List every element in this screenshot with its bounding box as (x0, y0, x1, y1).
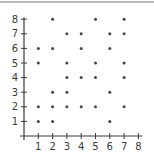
x-tick-label: 6 (107, 141, 113, 152)
x-tick-label: 1 (35, 141, 41, 152)
data-point (80, 32, 83, 35)
y-tick-label: 5 (12, 58, 18, 69)
y-tick-label: 3 (12, 87, 18, 98)
data-point (51, 91, 54, 94)
data-point (37, 105, 40, 108)
data-points (37, 18, 126, 123)
data-point (108, 32, 111, 35)
data-point (108, 91, 111, 94)
y-tick-label: 1 (12, 116, 18, 127)
data-point (65, 105, 68, 108)
data-point (94, 105, 97, 108)
data-point (65, 76, 68, 79)
data-point (108, 120, 111, 123)
data-point (80, 47, 83, 50)
data-point (37, 47, 40, 50)
data-point (65, 91, 68, 94)
data-point (51, 47, 54, 50)
data-point (37, 62, 40, 65)
data-point (94, 18, 97, 21)
data-point (123, 76, 126, 79)
data-point (123, 18, 126, 21)
x-tick-label: 3 (64, 141, 70, 152)
scatter-plot: 1234567812345678 (0, 0, 154, 167)
data-point (123, 62, 126, 65)
data-point (80, 76, 83, 79)
data-point (37, 120, 40, 123)
y-tick-label: 2 (12, 101, 18, 112)
data-point (94, 76, 97, 79)
data-point (51, 105, 54, 108)
data-point (65, 62, 68, 65)
y-tick-label: 6 (12, 43, 18, 54)
tick-labels: 1234567812345678 (12, 14, 142, 152)
data-point (94, 62, 97, 65)
x-tick-label: 2 (49, 141, 55, 152)
x-tick-label: 4 (78, 141, 84, 152)
x-tick-label: 5 (92, 141, 98, 152)
data-point (80, 105, 83, 108)
y-tick-label: 4 (12, 72, 18, 83)
data-point (123, 32, 126, 35)
data-point (123, 105, 126, 108)
data-point (51, 18, 54, 21)
x-tick-label: 7 (121, 141, 127, 152)
y-tick-label: 7 (12, 28, 18, 39)
y-tick-label: 8 (12, 14, 18, 25)
x-tick-label: 8 (135, 141, 141, 152)
data-point (108, 47, 111, 50)
data-point (51, 120, 54, 123)
data-point (65, 32, 68, 35)
